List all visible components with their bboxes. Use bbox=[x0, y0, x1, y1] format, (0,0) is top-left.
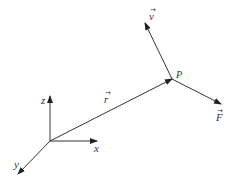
vector-arrow-icon: → bbox=[105, 90, 111, 97]
f-vector bbox=[172, 79, 221, 104]
v-vector bbox=[145, 23, 172, 79]
z-axis-label: z bbox=[41, 95, 45, 106]
r-vector-label: → r bbox=[104, 94, 108, 105]
y-axis bbox=[18, 141, 50, 174]
y-axis-label: y bbox=[14, 159, 19, 170]
v-vector-label: → v bbox=[149, 11, 154, 22]
vector-arrow-icon: → bbox=[217, 108, 223, 115]
point-p-label: P bbox=[176, 70, 182, 80]
vector-diagram bbox=[0, 0, 240, 192]
r-vector bbox=[50, 79, 172, 141]
f-vector-label: → F bbox=[216, 112, 223, 123]
vector-arrow-icon: → bbox=[150, 7, 156, 14]
x-axis-label: x bbox=[94, 143, 99, 154]
